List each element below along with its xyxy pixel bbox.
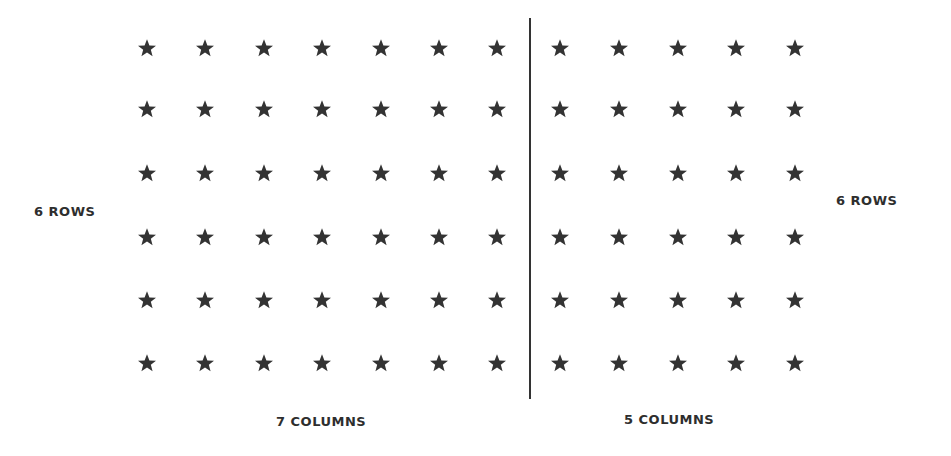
star-icon [371, 290, 391, 310]
star-icon [371, 163, 391, 183]
star-icon [195, 38, 215, 58]
star-icon [195, 99, 215, 119]
star-icon [609, 99, 629, 119]
star-icon [609, 290, 629, 310]
star-icon [487, 38, 507, 58]
star-icon [487, 163, 507, 183]
star-icon [726, 163, 746, 183]
star-icon [668, 353, 688, 373]
star-icon [550, 290, 570, 310]
star-icon [785, 99, 805, 119]
star-icon [429, 99, 449, 119]
star-icon [726, 99, 746, 119]
star-icon [726, 38, 746, 58]
star-icon [609, 227, 629, 247]
star-icon [668, 227, 688, 247]
star-icon [785, 38, 805, 58]
star-icon [195, 163, 215, 183]
star-icon [137, 353, 157, 373]
star-icon [550, 163, 570, 183]
star-icon [429, 38, 449, 58]
star-icon [550, 99, 570, 119]
star-icon [429, 353, 449, 373]
star-icon [195, 353, 215, 373]
star-icon [487, 99, 507, 119]
star-icon [137, 99, 157, 119]
star-icon [550, 353, 570, 373]
star-icon [137, 38, 157, 58]
star-icon [429, 290, 449, 310]
star-icon [312, 99, 332, 119]
star-icon [254, 163, 274, 183]
left-columns-label: 7 COLUMNS [276, 414, 366, 429]
star-icon [487, 353, 507, 373]
star-icon [550, 38, 570, 58]
star-icon [429, 163, 449, 183]
star-icon [137, 227, 157, 247]
star-icon [550, 227, 570, 247]
star-icon [668, 99, 688, 119]
star-icon [668, 38, 688, 58]
star-icon [785, 163, 805, 183]
star-icon [668, 290, 688, 310]
star-icon [429, 227, 449, 247]
star-icon [487, 227, 507, 247]
right-rows-label: 6 ROWS [836, 193, 897, 208]
star-icon [726, 290, 746, 310]
star-icon [785, 353, 805, 373]
star-icon [312, 227, 332, 247]
star-icon [312, 163, 332, 183]
star-icon [312, 290, 332, 310]
star-icon [254, 290, 274, 310]
star-icon [785, 227, 805, 247]
star-icon [254, 353, 274, 373]
star-icon [312, 38, 332, 58]
star-icon [254, 227, 274, 247]
star-icon [726, 353, 746, 373]
star-icon [254, 38, 274, 58]
star-icon [137, 163, 157, 183]
star-icon [668, 163, 688, 183]
star-icon [609, 38, 629, 58]
star-icon [609, 353, 629, 373]
star-icon [195, 227, 215, 247]
star-icon [254, 99, 274, 119]
star-icon [726, 227, 746, 247]
star-icon [312, 353, 332, 373]
vertical-divider [529, 18, 531, 399]
star-icon [195, 290, 215, 310]
star-icon [371, 99, 391, 119]
right-columns-label: 5 COLUMNS [624, 412, 714, 427]
left-rows-label: 6 ROWS [34, 204, 95, 219]
star-icon [137, 290, 157, 310]
star-icon [487, 290, 507, 310]
star-icon [785, 290, 805, 310]
star-icon [371, 38, 391, 58]
star-icon [609, 163, 629, 183]
star-icon [371, 353, 391, 373]
star-icon [371, 227, 391, 247]
